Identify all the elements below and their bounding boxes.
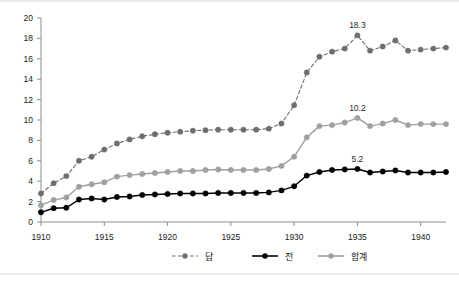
series-marker [114, 194, 119, 199]
series-marker [279, 188, 284, 193]
chart-legend[interactable]: 답전합계 [172, 251, 367, 262]
series-marker [51, 181, 56, 186]
series-marker [393, 117, 398, 122]
y-axis-tick-label: 4 [28, 176, 33, 186]
series-marker [203, 128, 208, 133]
legend-label: 답 [205, 251, 213, 262]
y-axis-tick-label: 14 [24, 74, 34, 84]
series-marker [317, 169, 322, 174]
series-marker [165, 191, 170, 196]
series-marker [367, 48, 372, 53]
x-axis-tick-label: 1930 [285, 232, 304, 242]
series-marker [64, 195, 69, 200]
series-marker [291, 103, 296, 108]
series-marker [64, 173, 69, 178]
series-marker [228, 190, 233, 195]
y-axis-tick-label: 20 [24, 13, 34, 23]
series-marker [140, 134, 145, 139]
series-marker [304, 173, 309, 178]
y-axis-tick-label: 12 [24, 95, 34, 105]
series-marker [152, 132, 157, 137]
series-marker [38, 191, 43, 196]
legend-marker-swatch [182, 253, 187, 258]
series-marker [228, 167, 233, 172]
series-marker [342, 167, 347, 172]
series-marker [266, 126, 271, 131]
series-marker [317, 123, 322, 128]
series-marker [380, 169, 385, 174]
series-marker [418, 121, 423, 126]
series-marker [431, 46, 436, 51]
series-marker [266, 166, 271, 171]
series-marker [443, 169, 448, 174]
series-marker [241, 167, 246, 172]
series-marker [380, 121, 385, 126]
series-marker [253, 127, 258, 132]
line-chart: 02468101214161820 1910191519201925193019… [0, 0, 459, 281]
series-marker [367, 170, 372, 175]
legend-item-1[interactable]: 답 [172, 251, 213, 262]
series-marker [393, 38, 398, 43]
series-marker [203, 191, 208, 196]
x-axis-ticks: 1910191519201925193019351940 [32, 222, 431, 242]
legend-item-2[interactable]: 전 [252, 252, 293, 262]
series-marker [443, 121, 448, 126]
series-marker [152, 170, 157, 175]
series-marker [140, 192, 145, 197]
data-point-label: 18.3 [349, 20, 366, 30]
series-marker [215, 167, 220, 172]
series-marker [76, 158, 81, 163]
series-marker [291, 184, 296, 189]
series-marker [304, 135, 309, 140]
series-marker [418, 170, 423, 175]
legend-label: 전 [285, 252, 293, 262]
series-marker [304, 70, 309, 75]
series-marker [203, 167, 208, 172]
series-marker [291, 154, 296, 159]
series-marker [102, 147, 107, 152]
legend-item-3[interactable]: 합계 [318, 251, 367, 262]
series-marker [342, 120, 347, 125]
data-series-group [38, 33, 448, 215]
y-axis-tick-label: 2 [28, 197, 33, 207]
series-marker [431, 121, 436, 126]
data-series [38, 166, 448, 215]
series-marker [367, 123, 372, 128]
data-point-label: 5.2 [351, 154, 363, 164]
y-axis-ticks: 02468101214161820 [24, 13, 41, 227]
series-marker [266, 190, 271, 195]
legend-marker-swatch [262, 253, 267, 258]
series-marker [190, 191, 195, 196]
x-axis-tick-label: 1935 [348, 232, 367, 242]
series-marker [102, 197, 107, 202]
series-marker [89, 196, 94, 201]
series-marker [89, 154, 94, 159]
series-marker [355, 115, 360, 120]
series-marker [38, 202, 43, 207]
series-marker [241, 127, 246, 132]
series-marker [140, 171, 145, 176]
series-marker [329, 122, 334, 127]
series-marker [76, 184, 81, 189]
series-marker [342, 46, 347, 51]
series-marker [165, 130, 170, 135]
series-marker [279, 163, 284, 168]
series-marker [114, 174, 119, 179]
series-marker [215, 127, 220, 132]
series-marker [178, 129, 183, 134]
series-marker [317, 54, 322, 59]
y-axis-tick-label: 10 [24, 115, 34, 125]
series-marker [38, 210, 43, 215]
series-marker [165, 169, 170, 174]
series-marker [127, 172, 132, 177]
data-point-label: 10.2 [349, 103, 366, 113]
series-marker [76, 197, 81, 202]
series-marker [114, 141, 119, 146]
series-marker [253, 190, 258, 195]
series-marker [355, 33, 360, 38]
series-marker [215, 190, 220, 195]
series-marker [405, 48, 410, 53]
chart-container: 02468101214161820 1910191519201925193019… [0, 0, 459, 281]
series-marker [178, 168, 183, 173]
series-marker [355, 166, 360, 171]
